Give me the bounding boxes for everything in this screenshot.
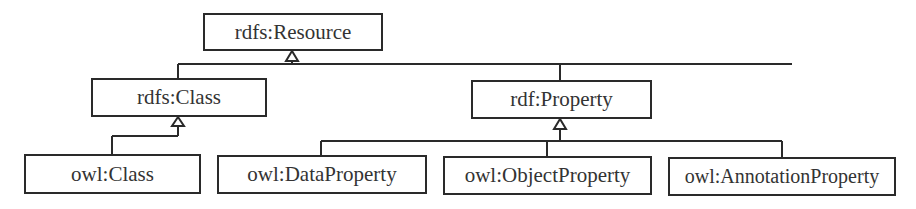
node-owl-class: owl:Class [24,154,201,194]
generalization-arrow-icon [286,51,298,61]
node-label: owl:ObjectProperty [465,163,631,188]
generalization-arrow-icon [172,117,184,126]
node-label: owl:AnnotationProperty [685,165,879,188]
node-rdfs-class: rdfs:Class [91,78,267,117]
class-hierarchy-diagram: rdfs:Resource rdfs:Class rdf:Property ow… [0,0,916,209]
node-rdfs-resource: rdfs:Resource [203,13,383,51]
node-owl-data-property: owl:DataProperty [217,155,427,194]
node-owl-object-property: owl:ObjectProperty [443,156,652,195]
node-label: rdf:Property [510,87,613,112]
node-rdf-property: rdf:Property [471,80,652,119]
node-owl-annotation-property: owl:AnnotationProperty [668,157,896,196]
node-label: rdfs:Class [137,85,221,110]
generalization-arrow-icon [554,119,566,129]
node-label: rdfs:Resource [235,20,352,45]
node-label: owl:Class [71,162,154,187]
node-label: owl:DataProperty [247,162,396,187]
